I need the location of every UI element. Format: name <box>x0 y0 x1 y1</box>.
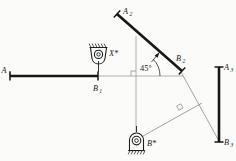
right-angle-markers <box>131 71 183 110</box>
label-a2-subscript: 2 <box>130 11 133 17</box>
right-angle-marker-crossing <box>177 104 184 111</box>
diagram-canvas: A 1 B 1 A 2 B 2 A 3 B 3 X* B* 45° <box>0 0 236 161</box>
b-star-hatching <box>128 151 145 155</box>
bar-a3b3 <box>215 67 224 142</box>
fixture-x-star <box>89 44 108 72</box>
construction-line-bstar-right <box>143 103 202 136</box>
label-b1: B <box>93 84 98 93</box>
construction-line-b2-b3 <box>181 72 219 141</box>
label-a1: A <box>1 66 8 75</box>
label-b3-subscript: 3 <box>229 142 233 148</box>
angle-45-annotation <box>152 52 161 76</box>
label-b3: B <box>224 138 229 147</box>
label-a3-subscript: 3 <box>229 67 233 73</box>
label-b-star: B* <box>147 139 157 148</box>
x-star-inner-circle <box>94 50 102 58</box>
label-b1-subscript: 1 <box>99 88 102 94</box>
label-b2-subscript: 2 <box>182 58 185 64</box>
diagram-labels: A 1 B 1 A 2 B 2 A 3 B 3 X* B* 45° <box>1 7 234 148</box>
x-star-hatching <box>89 44 106 48</box>
label-a3: A <box>223 63 230 72</box>
label-a1-subscript: 1 <box>8 70 11 76</box>
angle-45-arc <box>153 59 160 76</box>
label-x-star: X* <box>108 49 119 58</box>
label-angle-45: 45° <box>140 64 152 73</box>
label-a2: A <box>122 7 129 16</box>
right-angle-marker-center <box>131 71 136 76</box>
bar-a2b2-body <box>117 14 182 71</box>
mechanism-diagram-figure: A 1 B 1 A 2 B 2 A 3 B 3 X* B* 45° <box>0 0 236 161</box>
b-star-inner-circle <box>132 136 141 145</box>
label-b2: B <box>176 54 181 63</box>
bar-a1b1 <box>10 72 98 81</box>
fixture-b-star <box>128 126 145 154</box>
